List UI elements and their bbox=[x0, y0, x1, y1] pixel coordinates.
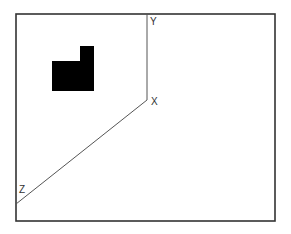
z-axis-line bbox=[16, 100, 147, 204]
diagram-frame bbox=[16, 14, 275, 221]
z-axis-label: Z bbox=[19, 184, 25, 195]
l-shaped-block bbox=[52, 46, 94, 91]
axes-diagram: Y X Z bbox=[0, 0, 291, 234]
y-axis-label: Y bbox=[150, 16, 157, 27]
x-axis-label: X bbox=[151, 96, 158, 107]
